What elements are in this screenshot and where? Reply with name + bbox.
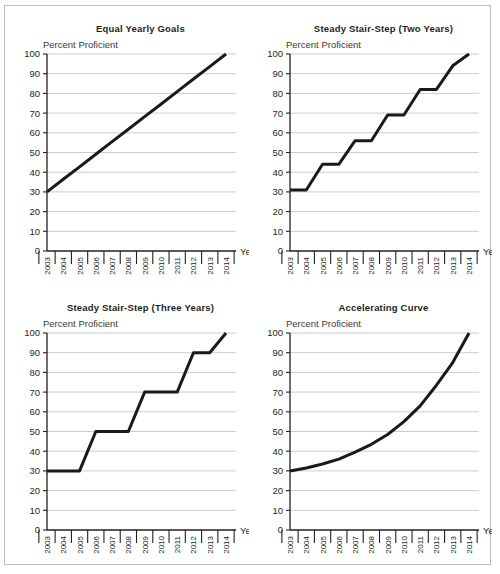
x-tick-label: 2012	[432, 535, 441, 553]
y-tick-label: 20	[272, 206, 283, 217]
x-tick-label: 2006	[335, 256, 344, 274]
x-tick-label: 2009	[141, 256, 150, 274]
y-tick-label: 100	[24, 327, 40, 338]
x-tick-label: 2012	[189, 535, 198, 553]
x-tick-label: 2014	[222, 535, 231, 553]
x-tick-label: 2006	[92, 535, 101, 553]
x-tick-label: 2006	[92, 256, 101, 274]
x-tick-label: 2011	[416, 256, 425, 274]
chart-panel-accelerating-curve: Accelerating CurvePercent Proficient0102…	[248, 287, 492, 567]
x-tick-label: 2010	[400, 256, 409, 274]
y-tick-label: 90	[272, 347, 283, 358]
y-axis-caption: Percent Proficient	[286, 318, 361, 329]
x-tick-label: 2003	[286, 256, 295, 274]
chart-title: Accelerating Curve	[338, 302, 428, 313]
y-tick-label: 80	[272, 88, 283, 99]
x-tick-label: 2014	[465, 256, 474, 274]
y-tick-label: 100	[24, 48, 40, 59]
x-tick-label: 2008	[124, 535, 133, 553]
x-axis-caption: Year	[483, 246, 492, 257]
y-tick-label: 30	[272, 186, 283, 197]
x-tick-label: 2007	[351, 535, 360, 553]
x-tick-label: 2011	[173, 256, 182, 274]
x-tick-label: 2008	[367, 535, 376, 553]
series-line	[47, 54, 226, 192]
x-tick-label: 2005	[319, 535, 328, 553]
y-axis-caption: Percent Proficient	[43, 318, 118, 329]
y-tick-label: 10	[29, 505, 40, 516]
y-axis-caption: Percent Proficient	[43, 39, 118, 50]
x-tick-label: 2004	[302, 535, 311, 553]
x-tick-label: 2013	[206, 256, 215, 274]
y-tick-label: 40	[29, 446, 40, 457]
x-tick-label: 2013	[449, 256, 458, 274]
y-tick-label: 70	[272, 108, 283, 119]
x-tick-label: 2008	[367, 256, 376, 274]
x-tick-label: 2007	[351, 256, 360, 274]
chart-panel-equal-yearly-goals: Equal Yearly GoalsPercent Proficient0102…	[5, 8, 249, 288]
chart-steady-stair-step-two-years: Steady Stair-Step (Two Years)Percent Pro…	[248, 8, 492, 288]
chart-title: Equal Yearly Goals	[96, 23, 185, 34]
x-tick-label: 2014	[465, 535, 474, 553]
y-tick-label: 90	[29, 347, 40, 358]
y-tick-label: 50	[272, 147, 283, 158]
y-tick-label: 70	[272, 387, 283, 398]
x-tick-label: 2013	[449, 535, 458, 553]
y-tick-label: 40	[29, 167, 40, 178]
series-line	[47, 333, 226, 471]
x-tick-label: 2011	[416, 535, 425, 553]
y-tick-label: 60	[272, 127, 283, 138]
x-tick-label: 2005	[319, 256, 328, 274]
y-tick-label: 90	[29, 68, 40, 79]
x-tick-label: 2013	[206, 535, 215, 553]
series-line	[290, 54, 469, 190]
y-tick-label: 80	[29, 367, 40, 378]
y-tick-label: 20	[29, 206, 40, 217]
x-tick-label: 2010	[400, 535, 409, 553]
y-tick-label: 90	[272, 68, 283, 79]
x-tick-label: 2010	[157, 535, 166, 553]
x-tick-label: 2007	[108, 535, 117, 553]
y-tick-label: 50	[272, 426, 283, 437]
x-tick-label: 2003	[43, 256, 52, 274]
y-tick-label: 60	[29, 127, 40, 138]
x-tick-label: 2004	[302, 256, 311, 274]
x-tick-label: 2010	[157, 256, 166, 274]
y-tick-label: 80	[272, 367, 283, 378]
chart-accelerating-curve: Accelerating CurvePercent Proficient0102…	[248, 287, 492, 567]
y-tick-label: 70	[29, 387, 40, 398]
y-tick-label: 50	[29, 426, 40, 437]
y-axis-caption: Percent Proficient	[286, 39, 361, 50]
x-tick-label: 2012	[189, 256, 198, 274]
x-tick-label: 2006	[335, 535, 344, 553]
chart-panel-steady-stair-step-three-years: Steady Stair-Step (Three Years)Percent P…	[5, 287, 249, 567]
y-tick-label: 30	[272, 465, 283, 476]
x-tick-label: 2009	[384, 256, 393, 274]
y-tick-label: 10	[272, 505, 283, 516]
x-tick-label: 2003	[43, 535, 52, 553]
chart-title: Steady Stair-Step (Two Years)	[314, 23, 453, 34]
x-tick-label: 2011	[173, 535, 182, 553]
y-tick-label: 30	[29, 465, 40, 476]
chart-equal-yearly-goals: Equal Yearly GoalsPercent Proficient0102…	[5, 8, 249, 288]
y-tick-label: 60	[29, 406, 40, 417]
x-tick-label: 2005	[76, 256, 85, 274]
x-axis-caption: Year	[483, 525, 492, 536]
y-tick-label: 40	[272, 167, 283, 178]
x-tick-label: 2007	[108, 256, 117, 274]
chart-panel-steady-stair-step-two-years: Steady Stair-Step (Two Years)Percent Pro…	[248, 8, 492, 288]
y-tick-label: 100	[267, 48, 283, 59]
y-tick-label: 30	[29, 186, 40, 197]
x-tick-label: 2005	[76, 535, 85, 553]
x-tick-label: 2009	[384, 535, 393, 553]
x-tick-label: 2008	[124, 256, 133, 274]
x-tick-label: 2012	[432, 256, 441, 274]
y-tick-label: 100	[267, 327, 283, 338]
figure-frame: Equal Yearly GoalsPercent Proficient0102…	[4, 5, 491, 565]
y-tick-label: 10	[272, 226, 283, 237]
y-tick-label: 20	[272, 485, 283, 496]
x-tick-label: 2014	[222, 256, 231, 274]
y-tick-label: 70	[29, 108, 40, 119]
x-tick-label: 2004	[59, 535, 68, 553]
y-tick-label: 10	[29, 226, 40, 237]
